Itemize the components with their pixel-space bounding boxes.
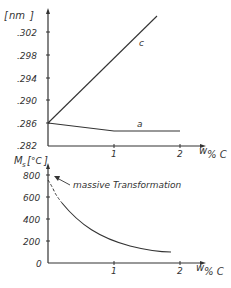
series-a-line xyxy=(48,123,180,131)
bottom-xlabel: % C xyxy=(204,266,224,277)
ms-curve xyxy=(62,203,171,252)
top-ylabel-bracket-close: ] xyxy=(29,10,34,21)
top-y-tick-label: .286 xyxy=(17,119,37,129)
top-y-tick-label: .282 xyxy=(17,141,37,151)
series-c-label: c xyxy=(139,38,144,48)
bottom-ylabel-bracket-close: ] xyxy=(43,155,48,166)
bottom-chart: M s [ °C ] 800 600 400 200 0 1 2 w % C m… xyxy=(14,155,224,277)
top-y-tick-label: .302 xyxy=(17,28,37,38)
annotation-arrow-icon xyxy=(54,176,60,181)
bottom-y-tick-label: 200 xyxy=(23,237,40,247)
bottom-ylabel-unit: °C xyxy=(31,156,43,166)
top-ylabel: nm xyxy=(9,10,25,21)
top-y-tick-label: .298 xyxy=(17,51,37,61)
series-a-label: a xyxy=(137,119,143,129)
top-x-tick-label: 2 xyxy=(177,149,183,159)
bottom-x-tick-label: 2 xyxy=(177,266,183,276)
massive-transformation-label: massive Transformation xyxy=(73,180,181,190)
bottom-ylabel-subscript: s xyxy=(22,161,26,169)
top-x-tick-label: 1 xyxy=(111,149,117,159)
top-y-tick-label: .294 xyxy=(17,74,37,84)
bottom-y-tick-label: 600 xyxy=(23,193,40,203)
top-chart: [ nm ] .302 .298 .294 .290 .286 .282 1 2… xyxy=(4,8,227,160)
bottom-y-tick-label: 0 xyxy=(36,259,42,269)
ms-dashed-curve xyxy=(48,180,62,203)
top-y-tick-label: .290 xyxy=(17,96,37,106)
top-y-axis-arrow-icon xyxy=(46,8,50,14)
top-xlabel: % C xyxy=(207,149,227,160)
series-c-line xyxy=(48,16,157,123)
figure: [ nm ] .302 .298 .294 .290 .286 .282 1 2… xyxy=(0,0,231,288)
annotation-arrow-line xyxy=(57,178,70,185)
bottom-y-tick-label: 400 xyxy=(23,215,40,225)
bottom-x-tick-label: 1 xyxy=(111,266,117,276)
bottom-y-tick-label: 800 xyxy=(23,171,40,181)
